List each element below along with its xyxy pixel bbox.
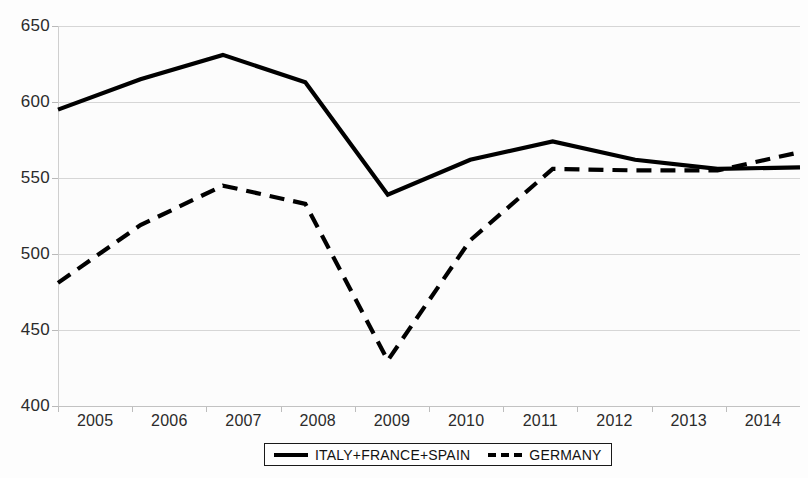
y-tick-mark-400 xyxy=(52,406,58,407)
x-tick-label-2011: 2011 xyxy=(523,412,558,430)
y-tick-label-650: 650 xyxy=(4,16,50,36)
x-tick-label-2009: 2009 xyxy=(374,412,410,430)
y-tick-label-400: 400 xyxy=(4,396,50,416)
x-tick-label-2010: 2010 xyxy=(448,412,484,430)
legend-label: ITALY+FRANCE+SPAIN xyxy=(315,447,470,463)
legend: ITALY+FRANCE+SPAINGERMANY xyxy=(264,443,612,466)
series-line-germany xyxy=(58,152,800,360)
series-line-italy-france-spain xyxy=(58,55,800,195)
x-tick-label-2008: 2008 xyxy=(299,412,335,430)
line-chart: 400450500550600650 200520062007200820092… xyxy=(0,0,808,478)
legend-swatch-solid xyxy=(274,453,308,457)
legend-entry-germany[interactable]: GERMANY xyxy=(488,447,601,463)
plot-area xyxy=(58,26,800,406)
x-tick-label-2005: 2005 xyxy=(77,412,113,430)
x-tick-label-2006: 2006 xyxy=(151,412,187,430)
gridline-400 xyxy=(58,406,800,407)
legend-entry-italy-france-spain[interactable]: ITALY+FRANCE+SPAIN xyxy=(274,447,470,463)
legend-label: GERMANY xyxy=(529,447,601,463)
y-tick-label-450: 450 xyxy=(4,320,50,340)
y-tick-label-600: 600 xyxy=(4,92,50,112)
y-tick-label-500: 500 xyxy=(4,244,50,264)
series-container xyxy=(58,26,800,406)
x-tick-label-2012: 2012 xyxy=(596,412,632,430)
x-tick-label-2013: 2013 xyxy=(670,412,706,430)
legend-swatch-dashed xyxy=(488,453,522,457)
x-tick-label-2014: 2014 xyxy=(745,412,781,430)
x-tick-label-2007: 2007 xyxy=(225,412,261,430)
y-tick-label-550: 550 xyxy=(4,168,50,188)
